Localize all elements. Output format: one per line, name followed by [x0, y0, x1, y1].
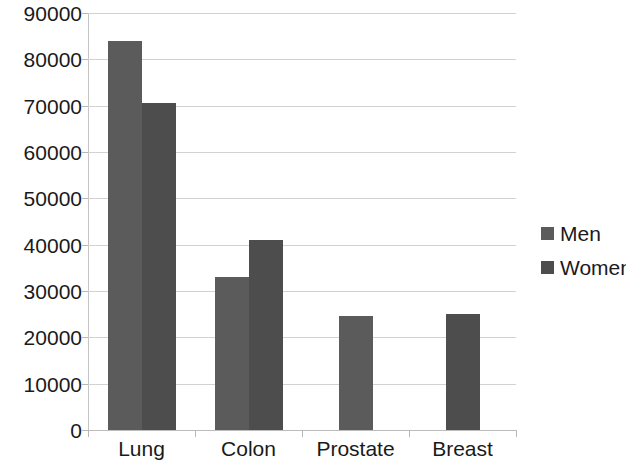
legend-swatch-women-icon	[541, 261, 554, 274]
legend-item-women: Women	[541, 250, 626, 284]
legend-item-men: Men	[541, 216, 626, 250]
x-axis-tick-mark	[88, 430, 89, 437]
y-axis-tick-label: 70000	[4, 95, 82, 116]
legend: Men Women	[541, 216, 626, 284]
bar-colon-women	[249, 240, 283, 430]
plot-area	[88, 13, 516, 430]
gridline	[88, 59, 516, 60]
x-axis-tick-mark	[195, 430, 196, 437]
y-axis-tick-label: 0	[4, 420, 82, 441]
bar-lung-men	[108, 41, 142, 430]
x-axis-label-colon: Colon	[221, 437, 276, 461]
y-axis-tick-label: 80000	[4, 49, 82, 70]
x-axis-tick-mark	[302, 430, 303, 437]
y-axis-tick-label: 40000	[4, 234, 82, 255]
y-axis-tick-label: 60000	[4, 142, 82, 163]
gridline	[88, 13, 516, 14]
bar-chart: 0100002000030000400005000060000700008000…	[0, 0, 626, 464]
x-axis-label-prostate: Prostate	[316, 437, 394, 461]
legend-swatch-men-icon	[541, 227, 554, 240]
x-axis-label-breast: Breast	[432, 437, 493, 461]
y-axis-tick-label: 50000	[4, 188, 82, 209]
y-axis-tick-label: 10000	[4, 373, 82, 394]
bar-lung-women	[142, 103, 176, 430]
bar-breast-women	[446, 314, 480, 430]
x-axis-label-lung: Lung	[118, 437, 165, 461]
bar-colon-men	[215, 277, 249, 430]
legend-label-men: Men	[560, 223, 601, 244]
y-axis-tick-label: 30000	[4, 281, 82, 302]
y-axis-tick-label: 90000	[4, 3, 82, 24]
x-axis-tick-mark	[516, 430, 517, 437]
x-axis-tick-mark	[409, 430, 410, 437]
bar-prostate-men	[339, 316, 373, 430]
legend-label-women: Women	[560, 257, 626, 278]
y-axis-tick-label: 20000	[4, 327, 82, 348]
y-axis: 0100002000030000400005000060000700008000…	[0, 0, 82, 464]
